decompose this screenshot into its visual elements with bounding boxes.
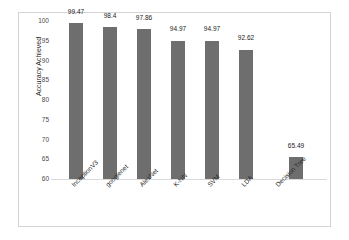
x-tick-label-googlenet: googlenet: [104, 163, 129, 188]
x-axis-tick-labels: InceptionV3 googlenet AlexNet K-NN SVM L…: [51, 13, 323, 228]
y-axis-title: Accuracy Achieved: [35, 22, 42, 112]
chart-frame: 100 95 90 85 80 75 70 65 60 Accuracy Ach…: [18, 12, 331, 227]
y-tick-label: 75: [25, 117, 49, 124]
x-tick-label-knn: K-NN: [172, 172, 188, 188]
x-tick-label-alexnet: AlexNet: [138, 167, 159, 188]
y-tick-label: 60: [25, 176, 49, 183]
x-tick-label-inceptionv3: InceptionV3: [70, 159, 99, 188]
y-tick-label: 70: [25, 136, 49, 143]
x-tick-label-lda: LDA: [240, 174, 254, 188]
x-tick-label-decision-tree: Decision Tree: [274, 155, 307, 188]
x-tick-label-svm: SVM: [206, 173, 221, 188]
y-tick-label: 65: [25, 156, 49, 163]
